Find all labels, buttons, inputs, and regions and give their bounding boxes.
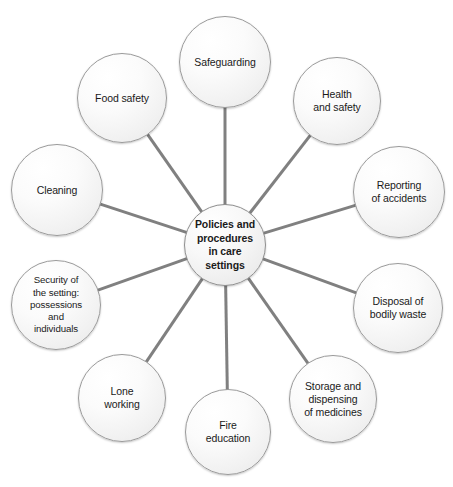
node-label-reporting-of-accidents: Reporting of accidents [367, 179, 432, 205]
spoke-line-health-and-safety [249, 134, 311, 214]
node-security-of-the-setting[interactable]: Security of the setting: possessions and… [11, 260, 101, 350]
spoke-line-reporting-of-accidents [262, 205, 357, 234]
node-fire-education[interactable]: Fire education [185, 389, 271, 475]
node-label-fire-education: Fire education [201, 419, 256, 445]
node-food-safety[interactable]: Food safety [77, 53, 167, 143]
spoke-line-food-safety [147, 133, 203, 213]
node-label-disposal-of-bodily-waste: Disposal of bodily waste [365, 295, 432, 321]
node-label-lone-working: Lone working [99, 385, 144, 411]
center-node-label: Policies and procedures in care settings [190, 218, 260, 272]
node-label-security-of-the-setting: Security of the setting: possessions and… [25, 274, 87, 335]
node-label-health-and-safety: Health and safety [308, 88, 365, 114]
node-label-storage-and-dispensing-of-medicines: Storage and dispensing of medicines [299, 380, 367, 419]
center-node-center-policies[interactable]: Policies and procedures in care settings [184, 204, 266, 286]
spoke-line-fire-education [226, 284, 228, 391]
diagram-canvas: SafeguardingHealth and safetyReporting o… [0, 0, 453, 487]
node-label-cleaning: Cleaning [32, 184, 83, 197]
node-health-and-safety[interactable]: Health and safety [293, 57, 381, 145]
node-lone-working[interactable]: Lone working [78, 354, 166, 442]
node-disposal-of-bodily-waste[interactable]: Disposal of bodily waste [353, 263, 443, 353]
spoke-line-cleaning [99, 204, 188, 233]
node-storage-and-dispensing-of-medicines[interactable]: Storage and dispensing of medicines [289, 355, 377, 443]
node-reporting-of-accidents[interactable]: Reporting of accidents [353, 146, 445, 238]
spoke-line-security-of-the-setting [97, 258, 189, 291]
spoke-line-lone-working [145, 277, 203, 363]
spoke-line-disposal-of-bodily-waste [262, 258, 358, 293]
node-cleaning[interactable]: Cleaning [11, 144, 103, 236]
node-safeguarding[interactable]: Safeguarding [179, 16, 271, 108]
node-label-safeguarding: Safeguarding [189, 56, 260, 69]
spoke-line-storage-and-dispensing-of-medicines [247, 277, 308, 365]
node-label-food-safety: Food safety [90, 92, 154, 105]
